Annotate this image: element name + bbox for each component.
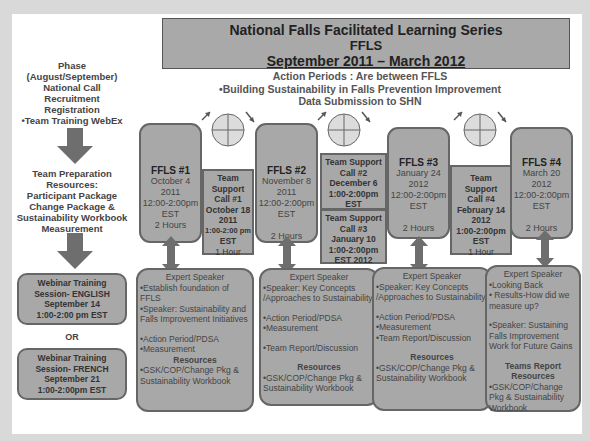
call-line: January 10 [322, 234, 385, 245]
session-time: 12:00-2:00pm [141, 198, 200, 209]
subtitle-line-3: Data Submission to SHN [190, 95, 530, 108]
resources-label: Resources [263, 362, 375, 373]
call-line: Team [452, 173, 510, 184]
webinar-line: Session- FRENCH [21, 364, 123, 375]
double-arrow-icon [536, 230, 554, 268]
session-title: FFLS #4 [512, 157, 571, 168]
title-banner: National Falls Facilitated Learning Seri… [162, 18, 570, 69]
call-line: Call #1 [204, 194, 252, 205]
expert-item: •Action Period/PDSA [140, 334, 250, 345]
call-line: EST [452, 236, 510, 247]
ffls-session-4: FFLS #4 March 20 2012 12:00-2:00pm EST 2… [510, 127, 573, 239]
expert-box-1: Expert Speaker •Establish foundation of … [136, 268, 254, 412]
pdsa-cycle-icon [314, 108, 374, 148]
phase-line: Phase (August/September) [12, 60, 132, 82]
call-line: Team [204, 173, 252, 184]
webinar-line: Session- ENGLISH [21, 289, 123, 300]
session-time: 12:00-2:00pm [389, 190, 448, 201]
session-date: January 24 [389, 168, 448, 179]
call-line: Support [452, 184, 510, 195]
expert-item: •Speaker: Key Concepts /Approaches to Su… [263, 283, 375, 304]
prep-line: Resources: [10, 179, 134, 190]
resources-label: Resources [140, 355, 250, 366]
webinar-french-box: Webinar Training Session- FRENCH Septemb… [17, 348, 127, 400]
session-year: 2012 [512, 179, 571, 190]
session-year: 2012 [389, 179, 448, 190]
support-call-1: Team Support Call #1 October 18 2011 1:0… [202, 169, 254, 255]
call-line: 2011 [204, 215, 252, 226]
resources-label: Resources [376, 352, 488, 363]
subtitle-line-2: •Building Sustainability in Falls Preven… [190, 83, 530, 96]
expert-item: •Action Period/PDSA [376, 312, 488, 323]
session-title: FFLS #2 [257, 165, 316, 176]
call-line: Call #3 [322, 224, 385, 235]
expert-item: •Speaker: Sustainability and Falls Impro… [140, 304, 250, 325]
call-line: EST [204, 236, 252, 247]
title-line-1: National Falls Facilitated Learning Seri… [163, 22, 569, 38]
session-title: FFLS #1 [141, 165, 200, 176]
resources-label: Resources [489, 371, 577, 382]
or-label: OR [17, 332, 127, 342]
resources-item: •GSK/COP/Change Pkg & Sustainability Wor… [140, 365, 250, 386]
phase-text: Phase (August/September) National Call R… [12, 60, 132, 126]
session-tz: EST [141, 209, 200, 220]
session-year: 2011 [257, 187, 316, 198]
expert-item: •Speaker: Sustaining Falls Improvement W… [489, 320, 577, 352]
session-duration: 2 Hours [389, 223, 448, 234]
session-title: FFLS #3 [389, 157, 448, 168]
phase-line: Registration [12, 104, 132, 115]
prep-line: Sustainability Workbook [10, 212, 134, 223]
call-line: 1:00-2:00pm [322, 245, 385, 256]
expert-item: •Team Report/Discussion [376, 333, 488, 344]
session-time: 12:00-2:00pm [512, 190, 571, 201]
support-call-4: Team Support Call #4 February 14 2012 1:… [450, 165, 512, 255]
expert-item: •Measurement [376, 322, 488, 333]
webinar-line: 1:00-2:00 pm EST [21, 310, 123, 321]
webinar-line: Webinar Training [21, 353, 123, 364]
ffls-session-2: FFLS #2 November 8 2011 12:00-2:00pm EST… [255, 123, 318, 243]
phase-line: •Team Training WebEx [12, 115, 132, 126]
call-line: EST 2012 [322, 255, 385, 266]
webinar-english-box: Webinar Training Session- ENGLISH Septem… [17, 273, 127, 325]
expert-item: •Looking Back [489, 280, 577, 291]
title-line-2: FFLS [163, 38, 569, 53]
webinar-line: September 21 [21, 374, 123, 385]
expert-heading: Expert Speaker [489, 269, 577, 280]
prep-line: Team Preparation [10, 168, 134, 179]
prep-line: Change Package & [10, 201, 134, 212]
down-arrow-icon [55, 128, 95, 168]
expert-item: •Measurement [263, 323, 375, 334]
webinar-line: Webinar Training [21, 278, 123, 289]
session-date: March 20 [512, 168, 571, 179]
call-line: 1:00-2:00pm [452, 226, 510, 237]
call-line: October 18 [204, 205, 252, 216]
call-line: 1:00-2:00pm [322, 189, 385, 200]
ffls-session-3: FFLS #3 January 24 2012 12:00-2:00pm EST… [387, 127, 450, 239]
resources-item: •GSK/COP/Change Pkg & Sustainability Wor… [263, 373, 375, 394]
ffls-session-1: FFLS #1 October 4 2011 12:00-2:00pm EST … [139, 123, 202, 243]
call-line: Team Support [322, 157, 385, 168]
session-tz: EST [389, 201, 448, 212]
expert-heading: Expert Speaker [376, 271, 488, 282]
phase-line: Recruitment [12, 93, 132, 104]
expert-heading: Expert Speaker [140, 272, 250, 283]
session-tz: EST [257, 209, 316, 220]
down-arrow-icon [55, 233, 95, 273]
title-line-3: September 2011 – March 2012 [163, 53, 569, 69]
expert-box-3: Expert Speaker •Speaker: Key Concepts /A… [372, 267, 492, 411]
session-time: 12:00-2:00pm [257, 198, 316, 209]
expert-box-2: Expert Speaker •Speaker: Key Concepts /A… [259, 268, 379, 406]
resources-item: •GSK/COP/Change Pkg & Sustainability Wor… [489, 382, 577, 414]
call-line: 2012 [452, 215, 510, 226]
call-line: February 14 [452, 205, 510, 216]
webinar-line: September 14 [21, 299, 123, 310]
preparation-text: Team Preparation Resources: Participant … [10, 168, 134, 234]
call-duration: 1 Hour [204, 247, 252, 258]
session-duration: 2 Hours [141, 220, 200, 231]
session-date: October 4 [141, 176, 200, 187]
call-line: EST [322, 199, 385, 210]
support-call-3: Team Support Call #3 January 10 1:00-2:0… [320, 209, 387, 264]
call-line: Call #4 [452, 194, 510, 205]
phase-line: National Call [12, 82, 132, 93]
expert-item: •Action Period/PDSA [263, 313, 375, 324]
